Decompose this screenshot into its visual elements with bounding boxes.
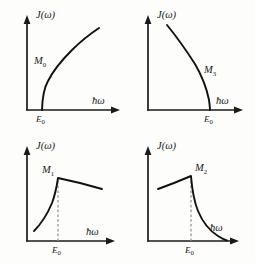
x-axis-label-m3: ħω bbox=[216, 95, 229, 106]
y-axis-label-m2: J(ω) bbox=[157, 140, 177, 152]
x-axis-arrow-m1 bbox=[106, 238, 115, 245]
y-axis-label-m3: J(ω) bbox=[157, 9, 177, 21]
x-axis-arrow-m0 bbox=[111, 107, 120, 114]
tick-label-e0-m2: E0 bbox=[184, 245, 195, 256]
y-axis-arrow-m0 bbox=[24, 15, 31, 24]
panel-m0: J(ω) ħω M0 E0 bbox=[0, 0, 127, 131]
curve-m0 bbox=[42, 28, 99, 110]
y-axis-arrow-m1 bbox=[24, 146, 31, 155]
critical-point-label-m2: M2 bbox=[194, 162, 208, 175]
x-axis-label-m2: ħω bbox=[210, 222, 223, 233]
panel-m1: J(ω) ħω M1 E0 bbox=[0, 131, 127, 262]
panel-m2: J(ω) ħω M2 E0 bbox=[128, 131, 255, 262]
y-axis-label-m0: J(ω) bbox=[36, 9, 56, 21]
y-axis-arrow-m2 bbox=[145, 146, 152, 155]
curve-m1 bbox=[34, 178, 102, 231]
van-hove-singularity-figure: J(ω) ħω M0 E0 bbox=[0, 0, 255, 263]
critical-point-label-m3: M3 bbox=[203, 64, 217, 77]
tick-label-e0-m3: E0 bbox=[203, 114, 214, 125]
tick-label-e0-m1: E0 bbox=[51, 245, 62, 256]
panel-m3: J(ω) ħω M3 E0 bbox=[128, 0, 255, 131]
x-axis-arrow-m2 bbox=[230, 238, 239, 245]
y-axis-label-m1: J(ω) bbox=[36, 140, 56, 152]
critical-point-label-m1: M1 bbox=[41, 164, 54, 177]
x-axis-arrow-m3 bbox=[234, 107, 243, 114]
x-axis-label-m0: ħω bbox=[92, 95, 105, 106]
y-axis-arrow-m3 bbox=[145, 15, 152, 24]
critical-point-label-m0: M0 bbox=[33, 55, 47, 68]
tick-label-e0-m0: E0 bbox=[35, 114, 46, 125]
x-axis-label-m1: ħω bbox=[86, 226, 99, 237]
